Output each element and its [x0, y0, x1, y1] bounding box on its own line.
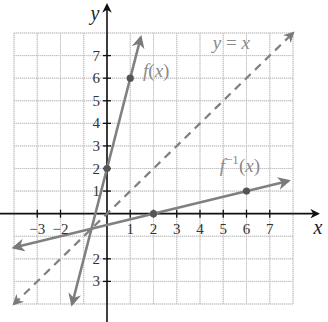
- y-tick-label: 7: [93, 48, 101, 64]
- f-label: f(x): [143, 60, 169, 82]
- y-tick-label: 6: [93, 70, 101, 86]
- y-tick-label: 1: [93, 183, 101, 199]
- data-point: [127, 75, 134, 82]
- y-tick-label: 5: [93, 93, 101, 109]
- y-tick-label: 3: [93, 138, 101, 154]
- y-tick-label: 2: [93, 251, 101, 267]
- y-tick-label: 3: [93, 273, 101, 289]
- x-tick-label: 3: [173, 221, 181, 237]
- data-point: [243, 187, 250, 194]
- x-tick-label: 1: [127, 221, 135, 237]
- y-axis-label: y: [89, 2, 100, 25]
- y-tick-label: 4: [93, 115, 101, 131]
- x-axis-label: x: [313, 216, 323, 238]
- data-point: [150, 210, 157, 217]
- x-tick-label: 7: [266, 221, 274, 237]
- y-tick-label: 2: [93, 161, 101, 177]
- x-tick-label: −3: [29, 221, 45, 237]
- f-inverse-label: f−1(x): [220, 152, 260, 177]
- data-point: [103, 165, 110, 172]
- x-tick-label: 2: [150, 221, 158, 237]
- identity-label: y = x: [211, 32, 251, 53]
- x-tick-label: 5: [220, 221, 228, 237]
- x-tick-label: 4: [196, 221, 204, 237]
- function-inverse-chart: −3−21234567765432123xyf(x)f−1(x)y = x: [0, 0, 328, 322]
- x-tick-label: −2: [53, 221, 69, 237]
- x-tick-label: 6: [243, 221, 251, 237]
